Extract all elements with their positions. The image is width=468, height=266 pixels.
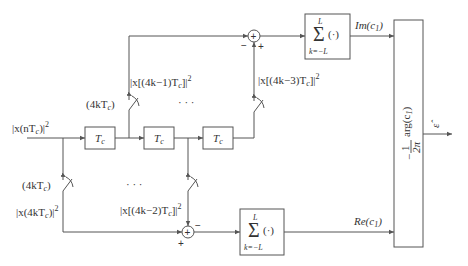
svg-text:+: + [251,31,257,42]
delay-block-1: Tc [85,127,115,149]
svg-text:Σ: Σ [248,219,260,241]
block-diagram: |x(nTc)|2 Tc Tc Tc + − + L Σ (·) [0,0,468,266]
top-summing-junction: + − + [241,30,264,52]
real-label: Re(c1) [353,215,382,229]
switch-icon [188,177,198,191]
svg-text:(·): (·) [263,224,274,237]
bottom-summing-junction: + − + [178,220,201,249]
svg-text:k=−L: k=−L [309,47,328,56]
switch-label-bottom-left: (4kTc) [22,179,51,193]
epsilon-hat-label: ε̂ [429,119,441,128]
imag-label: Im(c1) [354,19,383,33]
svg-text:+: + [178,238,184,249]
top-sum-block: L Σ (·) k=−L [305,14,350,59]
tap-label-top-left: |x[(4k−1)Tc]|2 [130,74,192,90]
tap-label-top-right: |x[(4k−3)Tc]|2 [258,72,320,88]
switch-label-top-left: (4kTc) [86,98,115,112]
svg-text:−: − [195,220,201,231]
delay-block-2: Tc [144,127,174,149]
svg-text:2π: 2π [410,142,422,154]
tap-label-bottom-left: |x(4kTc)|2 [16,204,59,220]
svg-text:−: − [241,40,247,51]
svg-text:k=−L: k=−L [244,243,263,252]
bottom-left-branch [63,138,182,232]
ellipsis-bottom: · · · [126,178,143,190]
ellipsis-top: · · · [178,96,195,108]
switch-icon [63,177,73,191]
svg-text:Σ: Σ [313,23,325,45]
svg-text:(·): (·) [328,28,339,41]
input-label: |x(nTc)|2 [12,120,49,136]
svg-text:|x(nTc)|2: |x(nTc)|2 [12,120,49,136]
svg-text:arg(c1): arg(c1) [400,107,414,137]
svg-text:+: + [185,227,191,238]
top-right-branch [233,42,254,138]
switch-icon [254,98,264,112]
svg-text:+: + [258,41,264,52]
delay-block-3: Tc [203,127,233,149]
arg-block: − 1 2π arg(c1) [394,20,423,247]
tap-label-bottom-right: |x[(4k−2)Tc]|2 [120,202,182,218]
switch-icon [129,96,139,110]
bottom-sum-block: L Σ (·) k=−L [240,209,284,255]
svg-text:−: − [403,154,415,160]
